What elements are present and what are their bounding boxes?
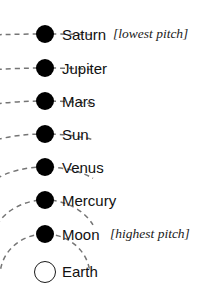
body-marker-moon-icon: [36, 225, 54, 243]
body-marker-sun-icon: [36, 125, 54, 143]
body-marker-venus-icon: [36, 158, 54, 176]
body-label-mercury: Mercury: [62, 193, 116, 208]
body-marker-earth-icon: [34, 261, 56, 283]
body-marker-mercury-icon: [36, 191, 54, 209]
orbital-arcs-layer: [0, 0, 203, 297]
body-label-jupiter: Jupiter: [62, 61, 107, 76]
body-label-saturn: Saturn: [62, 27, 106, 42]
pitch-annotation-moon: [highest pitch]: [110, 227, 190, 241]
body-marker-saturn-icon: [36, 25, 54, 43]
body-label-venus: Venus: [62, 160, 104, 175]
body-marker-mars-icon: [36, 92, 54, 110]
body-label-sun: Sun: [62, 127, 89, 142]
pitch-annotation-saturn: [lowest pitch]: [113, 27, 188, 41]
body-label-moon: Moon: [62, 227, 100, 242]
body-marker-jupiter-icon: [36, 59, 54, 77]
body-label-earth: Earth: [62, 264, 98, 279]
body-label-mars: Mars: [62, 94, 95, 109]
celestial-spheres-diagram: Saturn[lowest pitch]JupiterMarsSunVenusM…: [0, 0, 203, 297]
